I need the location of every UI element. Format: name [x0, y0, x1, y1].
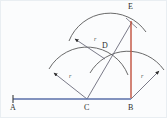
arc-center-b [90, 51, 164, 73]
ray-b-radius [131, 71, 159, 99]
radius-label-upper: r [94, 36, 96, 42]
radius-label-left: r [69, 73, 71, 79]
arc-center-d [69, 13, 146, 41]
radius-label-right: r [141, 73, 143, 79]
point-label-e: E [128, 3, 133, 11]
construction-canvas [1, 1, 167, 118]
arc-center-c [49, 47, 128, 75]
point-label-a: A [10, 104, 16, 112]
point-label-c: C [84, 104, 89, 112]
ray-c-through-d-to-e [87, 22, 132, 99]
point-label-d: D [102, 42, 108, 50]
geometry-figure: A C B D E r r r [0, 0, 167, 118]
point-label-b: B [128, 104, 133, 112]
